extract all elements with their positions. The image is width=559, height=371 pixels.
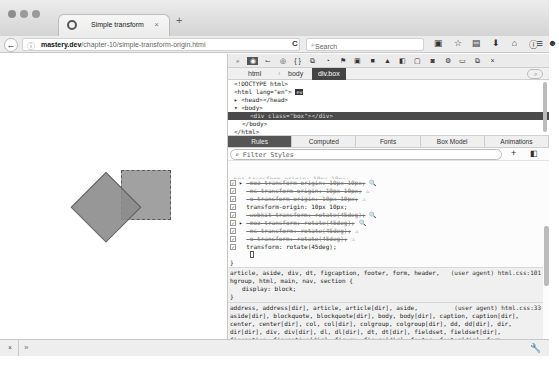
screenshot-icon[interactable]: ◙ — [427, 57, 438, 64]
rule-close-brace: } — [230, 293, 541, 301]
devtools-toolbar: ⌕ ◉ ⌙ ◎ { } ⧉ ◔ ⚑ ▣ ■ ▲ ◧ ▢ ◙ ⚙ ▭ ⧉ × — [228, 54, 549, 68]
extension-icon[interactable]: ☻ — [546, 38, 559, 51]
memory-tab-icon[interactable]: ◔ — [322, 57, 333, 64]
pick-element-icon[interactable]: ⌕ — [232, 57, 243, 65]
breadcrumb-html[interactable]: html — [248, 70, 261, 77]
declaration[interactable]: ✓ -o-transform: rotate(45deg);⚠ — [228, 235, 543, 243]
search-icon[interactable]: 🔍 — [369, 211, 376, 218]
scratchpad-icon[interactable]: ■ — [367, 57, 378, 64]
markup-search-icon[interactable]: ⌕ — [527, 69, 543, 79]
paint-flashing-icon[interactable]: ▲ — [382, 57, 393, 64]
search-icon[interactable]: 🔍 — [359, 219, 366, 226]
rule-close-brace: } — [228, 259, 543, 267]
bookmark-star-icon[interactable]: ☆ — [451, 38, 464, 51]
markup-node[interactable]: ▸ <head></head> — [228, 96, 549, 104]
reload-button[interactable]: C — [292, 39, 298, 48]
window-bottom — [0, 356, 549, 371]
download-icon[interactable]: ⬇ — [489, 38, 502, 51]
home-icon[interactable]: ⌂ — [508, 38, 521, 51]
breadcrumb-div-box[interactable]: div.box — [312, 68, 346, 80]
declaration-checkbox[interactable]: ✓ — [230, 196, 236, 202]
declaration[interactable]: ✓ transform-origin: 10px 10px; — [228, 203, 543, 211]
markup-scrollbar[interactable] — [543, 82, 547, 132]
browser-tab[interactable]: Simple transform × — [58, 14, 170, 36]
markup-node-selected[interactable]: <div class="box"></div> — [228, 112, 549, 120]
markup-node[interactable]: ▾ <body> — [228, 104, 549, 112]
new-declaration-editor[interactable] — [228, 251, 543, 259]
declaration-checkbox[interactable]: ✓ — [230, 204, 236, 210]
zoom-window-button[interactable] — [32, 10, 40, 18]
declaration[interactable]: ✓ -webkit-transform: rotate(45deg);🔍 — [228, 211, 543, 219]
search-icon[interactable]: 🔍 — [369, 179, 376, 186]
responsive-mode-icon[interactable]: ◧ — [397, 57, 408, 65]
tab-fonts[interactable]: Fonts — [356, 136, 420, 147]
rules-view: -moz-transform-origin: 10px 10px; ✓▸ -mo… — [228, 175, 543, 339]
tab-close-button[interactable]: × — [154, 20, 159, 29]
markup-node[interactable]: </html> — [228, 128, 549, 136]
close-devtools-icon[interactable]: × — [487, 57, 498, 64]
declaration-checkbox[interactable]: ✓ — [230, 228, 236, 234]
rule-source-link[interactable]: (user agent) html.css:33 — [454, 304, 541, 312]
declaration-checkbox[interactable]: ✓ — [230, 220, 236, 226]
declaration[interactable]: ✓ -ms-transform: rotate(45deg);⚠ — [228, 227, 543, 235]
warning-icon: ⚠ — [355, 227, 359, 234]
clipboard-icon[interactable]: ▤ — [470, 38, 483, 51]
url-text[interactable]: mastery.dev/chapter-10/simple-transform-… — [41, 41, 205, 48]
declaration[interactable]: ✓▸ -moz-transform: rotate(45deg);🔍 — [228, 219, 543, 227]
tab-rules[interactable]: Rules — [228, 136, 292, 147]
breadcrumb: html › body div.box ⌕ — [228, 68, 549, 80]
dock-icon[interactable]: ▭ — [457, 57, 468, 65]
markup-node[interactable]: </body> — [228, 120, 549, 128]
close-window-button[interactable] — [8, 10, 16, 18]
back-button[interactable]: ← — [4, 38, 18, 52]
close-console-icon[interactable]: × — [8, 344, 12, 351]
search-input[interactable]: ⌕ Search — [306, 38, 424, 51]
title-bar: Simple transform × + — [0, 0, 549, 36]
new-tab-button[interactable]: + — [176, 14, 182, 26]
wrench-icon[interactable]: 🔧 — [530, 343, 541, 353]
declaration-checkbox[interactable]: ✓ — [230, 188, 236, 194]
inspector-tab-icon[interactable]: ◉ — [247, 57, 258, 65]
tab-box-model[interactable]: Box Model — [421, 136, 485, 147]
info-icon[interactable]: ⓘ — [27, 40, 35, 51]
minimize-window-button[interactable] — [20, 10, 28, 18]
markup-node[interactable]: <html lang="en"> ev — [228, 88, 549, 96]
console-tab-icon[interactable]: ⌙ — [262, 57, 273, 65]
rule-selector: article, aside, div, dt, figcaption, foo… — [230, 269, 440, 284]
event-badge[interactable]: ev — [295, 89, 303, 95]
rule-source-link[interactable]: (user agent) html.css:101 — [451, 269, 541, 277]
menu-button[interactable]: ≡ — [537, 37, 543, 49]
ua-rule: (user agent) html.css:101 article, aside… — [228, 267, 543, 302]
style-editor-tab-icon[interactable]: { } — [292, 57, 303, 64]
rulers-icon[interactable]: ▢ — [412, 57, 423, 65]
favicon-icon — [67, 20, 77, 30]
url-path: /chapter-10/simple-transform-origin.html — [81, 41, 205, 48]
filter-styles-input[interactable]: ⌕ Filter Styles — [230, 149, 502, 160]
tab-animations[interactable]: Animations — [485, 136, 549, 147]
frames-icon[interactable]: ▣ — [352, 57, 363, 65]
performance-tab-icon[interactable]: ⧉ — [307, 57, 318, 65]
markup-node[interactable]: <!DOCTYPE html> — [228, 80, 549, 88]
tab-computed[interactable]: Computed — [292, 136, 356, 147]
declaration[interactable]: ✓ -o-transform-origin: 10px 10px;⚠ — [228, 195, 543, 203]
undock-icon[interactable]: ⧉ — [472, 57, 483, 65]
url-bar[interactable]: ⓘ mastery.dev/chapter-10/simple-transfor… — [22, 38, 300, 51]
declaration[interactable]: ✓ transform: rotate(45deg); — [228, 243, 543, 251]
console-prompt-input[interactable]: » — [24, 343, 28, 352]
toggle-pseudo-class-icon[interactable]: ◧ — [530, 149, 538, 158]
declaration-checkbox[interactable]: ✓ — [230, 180, 236, 186]
breadcrumb-body[interactable]: body — [288, 70, 303, 77]
network-tab-icon[interactable]: ⚑ — [337, 57, 348, 65]
declaration-checkbox[interactable]: ✓ — [230, 244, 236, 250]
declaration[interactable]: ✓▸ -moz-transform-origin: 10px 10px;🔍 — [228, 179, 543, 187]
settings-gear-icon[interactable]: ⚙ — [442, 57, 453, 65]
declaration[interactable]: ✓ -ms-transform-origin: 10px 10px;⚠ — [228, 187, 543, 195]
rules-scrollbar[interactable] — [544, 226, 549, 286]
library-icon[interactable]: ▣ — [432, 38, 445, 51]
debugger-tab-icon[interactable]: ◎ — [277, 57, 288, 65]
declaration-checkbox[interactable]: ✓ — [230, 212, 236, 218]
search-placeholder: ⌕ Search — [311, 41, 315, 49]
add-rule-button[interactable]: + — [511, 148, 516, 158]
devtools-panel: ⌕ ◉ ⌙ ◎ { } ⧉ ◔ ⚑ ▣ ■ ▲ ◧ ▢ ◙ ⚙ ▭ ⧉ × ht… — [228, 54, 549, 339]
declaration-checkbox[interactable]: ✓ — [230, 236, 236, 242]
